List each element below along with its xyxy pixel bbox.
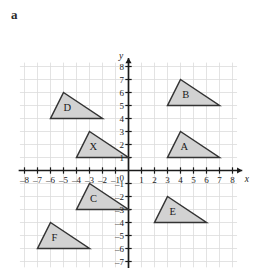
x-tick-label: –2 <box>97 175 107 185</box>
coordinate-plane-figure: ABCDEFX –8–7–6–5–4–3–2–11234567887654321… <box>0 0 275 276</box>
x-tick-label: 2 <box>152 175 157 185</box>
x-axis-arrow <box>237 167 242 173</box>
x-tick-label: 7 <box>217 175 222 185</box>
x-tick-label: 1 <box>139 175 144 185</box>
y-tick-label: 6 <box>120 88 125 98</box>
x-tick-label: –3 <box>84 175 95 185</box>
y-tick-label: –5 <box>114 231 125 241</box>
coordinate-plane-svg: ABCDEFX –8–7–6–5–4–3–2–11234567887654321… <box>0 0 275 276</box>
y-axis-arrow <box>125 58 131 63</box>
y-tick-label: 2 <box>120 140 125 150</box>
y-tick-label: 1 <box>120 153 125 163</box>
y-tick-label: 8 <box>120 62 125 72</box>
x-tick-label: 5 <box>191 175 196 185</box>
y-axis-name: y <box>118 51 124 61</box>
axis-names: xy <box>118 51 250 183</box>
y-tick-label: –7 <box>114 257 125 267</box>
y-tick-label: 3 <box>120 127 125 137</box>
triangle-label-e: E <box>169 206 175 217</box>
y-tick-label: –6 <box>114 244 125 254</box>
y-tick-label: –3 <box>114 205 125 215</box>
triangle-label-b: B <box>182 89 189 100</box>
y-tick-label: 4 <box>120 114 125 124</box>
triangle-label-c: C <box>90 193 97 204</box>
y-tick-label: –4 <box>114 218 125 228</box>
triangle-label-d: D <box>64 102 72 113</box>
x-tick-label: –8 <box>19 175 30 185</box>
triangle-label-x: X <box>90 141 98 152</box>
x-tick-label: 4 <box>178 175 183 185</box>
x-tick-label: 8 <box>230 175 235 185</box>
y-tick-label: –2 <box>114 192 124 202</box>
triangle-label-a: A <box>181 141 189 152</box>
origin-label: 0 <box>120 173 125 183</box>
x-tick-label: –7 <box>32 175 43 185</box>
x-tick-label: –5 <box>58 175 69 185</box>
x-tick-label: –6 <box>45 175 56 185</box>
x-tick-label: 6 <box>204 175 209 185</box>
x-tick-label: –4 <box>71 175 82 185</box>
triangle-label-f: F <box>51 232 57 243</box>
y-tick-label: 7 <box>120 75 125 85</box>
y-tick-label: 5 <box>120 101 125 111</box>
x-tick-label: 3 <box>165 175 170 185</box>
x-axis-name: x <box>244 174 250 184</box>
